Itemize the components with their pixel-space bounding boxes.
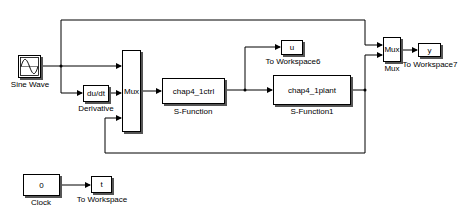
to-workspace-u-block[interactable]: u xyxy=(281,40,303,55)
s-function-plant-label: S-Function1 xyxy=(290,107,333,116)
clock-label: Clock xyxy=(31,198,51,207)
derivative-block[interactable]: du/dt xyxy=(83,85,109,102)
mux-block-input[interactable]: Mux xyxy=(122,50,141,132)
s-function-ctrl-block[interactable]: chap4_1ctrl xyxy=(162,78,225,104)
derivative-label: Derivative xyxy=(78,104,114,113)
sine-wave-label: Sine Wave xyxy=(11,80,49,89)
to-workspace-y-block[interactable]: y xyxy=(418,43,441,57)
clock-block[interactable]: 0 xyxy=(23,174,60,196)
mux-block-output[interactable]: Mux xyxy=(383,37,401,62)
to-workspace-u-label: To Workspace6 xyxy=(266,57,321,66)
s-function-ctrl-label: S-Function xyxy=(174,107,213,116)
sine-wave-block[interactable] xyxy=(18,55,41,78)
s-function-plant-block[interactable]: chap4_1plant xyxy=(273,75,351,105)
mux-output-label: Mux xyxy=(384,64,399,73)
sine-wave-icon xyxy=(20,57,39,76)
signal-lines xyxy=(0,0,465,215)
to-workspace-t-label: To Workspace xyxy=(77,195,128,204)
to-workspace-y-label: To Workspace7 xyxy=(403,60,458,69)
to-workspace-t-block[interactable]: t xyxy=(91,176,112,193)
